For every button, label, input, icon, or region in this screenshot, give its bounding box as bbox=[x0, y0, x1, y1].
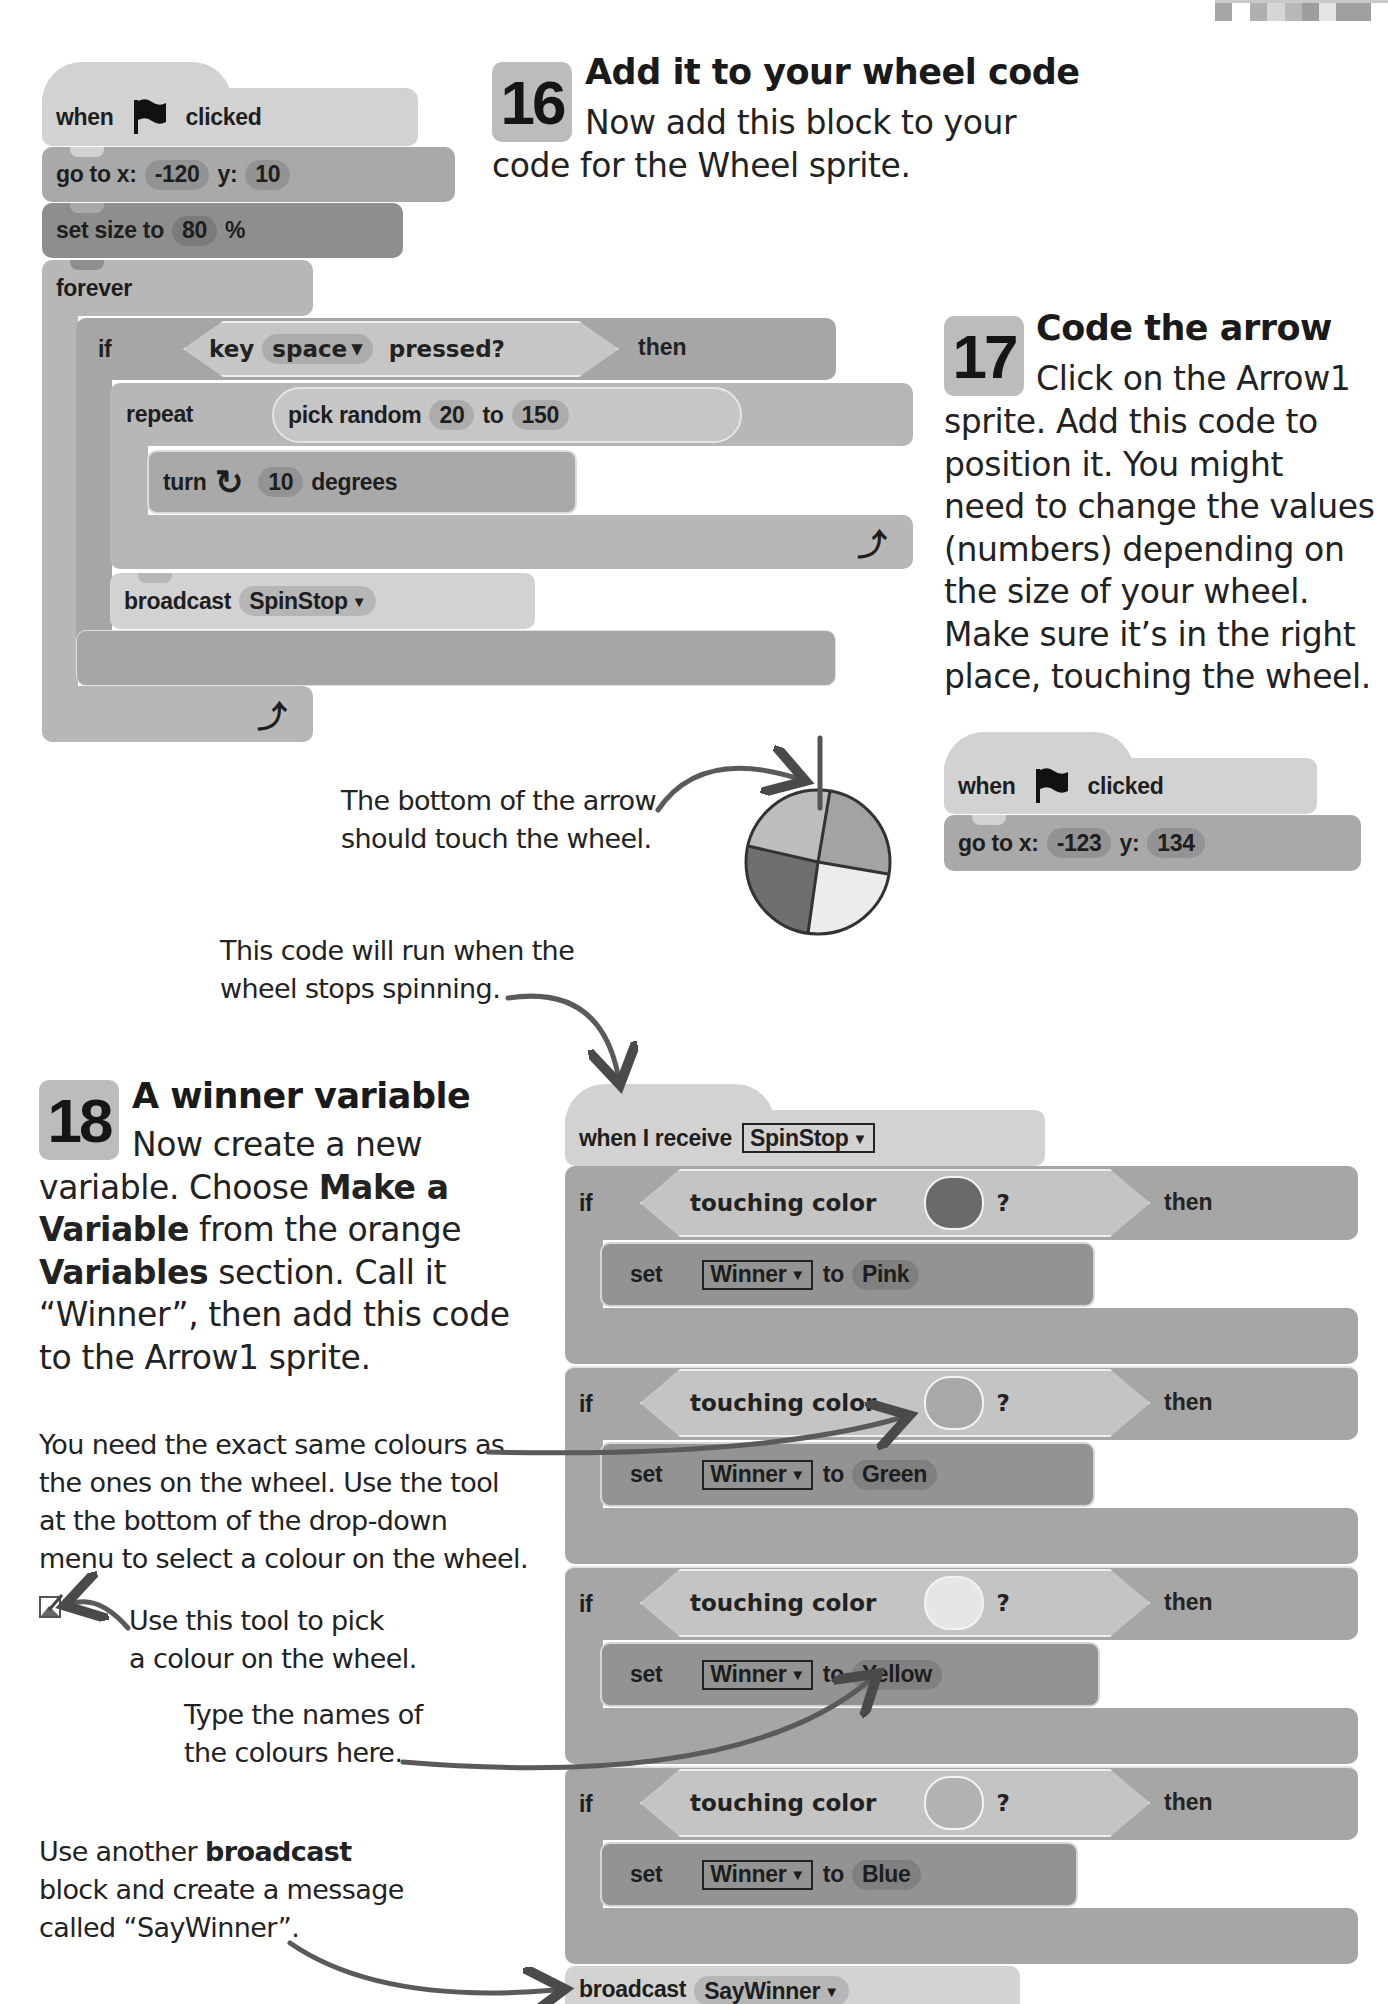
value-input[interactable]: Green bbox=[852, 1460, 937, 1490]
step-16-title: Add it to your wheel code bbox=[585, 52, 1079, 92]
random-from-input[interactable]: 20 bbox=[429, 400, 474, 430]
touching-color-condition-1[interactable]: touching color ? bbox=[640, 1169, 1150, 1237]
then-label: then bbox=[1164, 1789, 1213, 1816]
when-label: when bbox=[56, 104, 114, 131]
value-input[interactable]: Pink bbox=[852, 1260, 919, 1290]
step-16-text-1: Now add this block to your bbox=[585, 102, 1016, 145]
message-dropdown[interactable]: SpinStop bbox=[239, 586, 376, 616]
to-label: to bbox=[823, 1261, 844, 1288]
variable-dropdown[interactable]: Winner bbox=[702, 1460, 812, 1490]
color-picker-tool-icon bbox=[39, 1592, 65, 1618]
step-18-line-2: variable. Choose Make a bbox=[39, 1167, 449, 1210]
color-swatch-pink[interactable] bbox=[924, 1176, 984, 1230]
color-swatch-green[interactable] bbox=[924, 1376, 984, 1430]
broadcast-spinstop-block[interactable]: broadcast SpinStop bbox=[110, 573, 535, 629]
when-i-receive-block[interactable]: when I receive SpinStop bbox=[565, 1110, 1045, 1166]
degrees-label: degrees bbox=[311, 469, 397, 496]
value-input[interactable]: Yellow bbox=[852, 1660, 942, 1690]
broadcast-label: broadcast bbox=[579, 1976, 686, 2003]
if-block-bottom bbox=[565, 1908, 1358, 1964]
forever-c-arm bbox=[42, 300, 78, 700]
then-label: then bbox=[1164, 1589, 1213, 1616]
step-17-line-5: (numbers) depending on bbox=[944, 529, 1344, 572]
forever-label: forever bbox=[56, 275, 132, 302]
touching-color-condition-4[interactable]: touching color ? bbox=[640, 1769, 1150, 1837]
spinner-wheel-illustration bbox=[740, 730, 900, 940]
y-label: y: bbox=[1119, 830, 1139, 857]
if-label: if bbox=[579, 1190, 592, 1217]
if-block-bottom bbox=[565, 1708, 1358, 1764]
step-17-line-6: the size of your wheel. bbox=[944, 571, 1309, 614]
when-flag-clicked-block[interactable]: when clicked bbox=[42, 88, 418, 146]
touching-color-label: touching color bbox=[690, 1590, 876, 1616]
broadcast-saywinner-block[interactable]: broadcast SayWinner bbox=[565, 1966, 1020, 2004]
step-18-line-1: Now create a new bbox=[132, 1124, 422, 1167]
variable-dropdown[interactable]: Winner bbox=[702, 1860, 812, 1890]
arrow-to-broadcast bbox=[290, 1943, 555, 1993]
exact-colours-note: You need the exact same colours as the o… bbox=[39, 1426, 528, 1578]
to-label: to bbox=[823, 1861, 844, 1888]
arrow-bottom-note: The bottom of the arrow should touch the… bbox=[341, 782, 656, 858]
if-label: if bbox=[579, 1591, 592, 1618]
step-18-line-4: Variables section. Call it bbox=[39, 1252, 446, 1295]
pick-random-reporter[interactable]: pick random 20 to 150 bbox=[272, 387, 742, 443]
touching-color-label: touching color bbox=[690, 1190, 876, 1216]
rotate-clockwise-icon: ↻ bbox=[215, 462, 243, 502]
forever-block[interactable]: forever bbox=[42, 260, 313, 316]
arrow-to-picker-icon bbox=[74, 1602, 128, 1628]
receive-message-dropdown[interactable]: SpinStop bbox=[742, 1123, 875, 1153]
step-17-line-2: sprite. Add this code to bbox=[944, 401, 1318, 444]
arrow-go-to-xy-block[interactable]: go to x: -123 y: 134 bbox=[944, 815, 1361, 871]
message-dropdown[interactable]: SayWinner bbox=[694, 1976, 849, 2004]
set-size-block[interactable]: set size to 80 % bbox=[42, 203, 403, 258]
random-to-input[interactable]: 150 bbox=[512, 400, 569, 430]
value-input[interactable]: Blue bbox=[852, 1860, 921, 1890]
percent-label: % bbox=[225, 217, 245, 244]
if-label: if bbox=[579, 1391, 592, 1418]
touching-color-label: touching color bbox=[690, 1790, 876, 1816]
x-input[interactable]: -123 bbox=[1047, 828, 1112, 858]
turn-label: turn bbox=[163, 469, 207, 496]
clicked-label: clicked bbox=[186, 104, 262, 131]
broadcast-label: broadcast bbox=[124, 588, 231, 615]
green-flag-icon bbox=[132, 98, 168, 136]
step-17-title: Code the arrow bbox=[1036, 308, 1332, 348]
set-winner-green-block[interactable]: set Winner to Green bbox=[600, 1442, 1095, 1507]
question-mark: ? bbox=[996, 1190, 1009, 1216]
key-pressed-condition[interactable]: key space pressed? bbox=[183, 321, 619, 377]
clicked-label: clicked bbox=[1088, 773, 1164, 800]
key-dropdown[interactable]: space bbox=[262, 334, 372, 364]
y-input[interactable]: 10 bbox=[245, 160, 290, 190]
size-input[interactable]: 80 bbox=[172, 216, 217, 246]
set-winner-yellow-block[interactable]: set Winner to Yellow bbox=[600, 1642, 1100, 1707]
pixel-strip-decoration bbox=[1215, 0, 1388, 22]
arrow-when-flag-clicked-block[interactable]: when clicked bbox=[944, 758, 1317, 814]
runs-when-note: This code will run when the wheel stops … bbox=[220, 932, 574, 1008]
color-swatch-yellow[interactable] bbox=[924, 1576, 984, 1630]
set-label: set bbox=[630, 1861, 662, 1888]
degrees-input[interactable]: 10 bbox=[258, 467, 303, 497]
loop-arrow-icon: ⤴ bbox=[857, 520, 887, 564]
color-swatch-blue[interactable] bbox=[924, 1776, 984, 1830]
y-input[interactable]: 134 bbox=[1147, 828, 1204, 858]
forever-block-bottom[interactable]: ⤴ bbox=[42, 686, 313, 742]
go-to-label: go to x: bbox=[958, 830, 1039, 857]
then-label: then bbox=[638, 334, 687, 361]
variable-dropdown[interactable]: Winner bbox=[702, 1660, 812, 1690]
repeat-label: repeat bbox=[126, 401, 193, 428]
to-label: to bbox=[823, 1661, 844, 1688]
turn-degrees-block[interactable]: turn ↻ 10 degrees bbox=[147, 450, 577, 514]
step-17-line-4: need to change the values bbox=[944, 486, 1375, 529]
question-mark: ? bbox=[996, 1790, 1009, 1816]
touching-color-condition-3[interactable]: touching color ? bbox=[640, 1569, 1150, 1637]
set-winner-blue-block[interactable]: set Winner to Blue bbox=[600, 1842, 1078, 1907]
x-input[interactable]: -120 bbox=[145, 160, 210, 190]
go-to-xy-block[interactable]: go to x: -120 y: 10 bbox=[42, 147, 455, 202]
step-18-line-6: to the Arrow1 sprite. bbox=[39, 1337, 371, 1380]
pick-random-label: pick random bbox=[288, 402, 421, 429]
touching-color-condition-2[interactable]: touching color ? bbox=[640, 1369, 1150, 1437]
when-label: when bbox=[958, 773, 1016, 800]
green-flag-icon bbox=[1034, 767, 1070, 805]
variable-dropdown[interactable]: Winner bbox=[702, 1260, 812, 1290]
set-winner-pink-block[interactable]: set Winner to Pink bbox=[600, 1242, 1095, 1307]
